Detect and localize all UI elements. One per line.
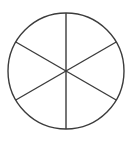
circle-sectors-figure bbox=[0, 0, 137, 143]
figure-canvas bbox=[0, 0, 137, 143]
